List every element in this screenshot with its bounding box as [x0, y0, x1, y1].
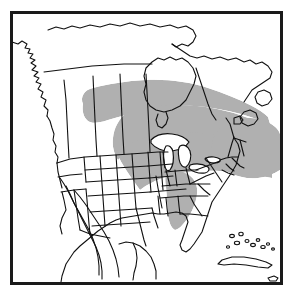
map-canvas [0, 0, 291, 296]
range-map-figure [0, 0, 291, 296]
lake-huron [178, 145, 190, 167]
